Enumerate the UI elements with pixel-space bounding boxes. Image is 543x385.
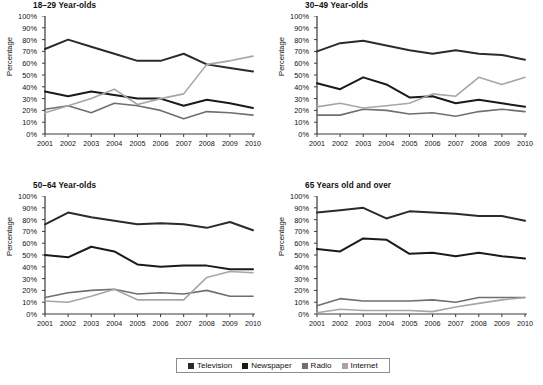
x-tick-label: 2004	[106, 319, 122, 328]
legend-item-radio[interactable]: Radio	[302, 361, 332, 370]
legend-item-internet[interactable]: Internet	[342, 361, 378, 370]
series-line-television	[45, 40, 253, 72]
x-tick-label: 2009	[222, 319, 238, 328]
x-tick-label: 2001	[37, 319, 53, 328]
plot-area	[45, 16, 253, 134]
x-tick-label: 2010	[245, 319, 261, 328]
series-line-newspaper	[317, 238, 525, 258]
y-tick-label: 20%	[22, 106, 37, 115]
x-tick-label: 2007	[448, 319, 464, 328]
y-tick-label: 80%	[22, 35, 37, 44]
legend-item-television[interactable]: Television	[188, 361, 232, 370]
series-line-radio	[45, 289, 253, 297]
panel-30-49: 30–49 Year-olds Percentage 0%10%20%30%40…	[272, 0, 543, 178]
y-tick-label: 80%	[294, 215, 309, 224]
x-tick-label: 2006	[425, 139, 441, 148]
x-tick-label: 2001	[309, 319, 325, 328]
plot-area	[317, 16, 525, 134]
series-line-radio	[317, 109, 525, 116]
legend-swatch-icon	[188, 363, 194, 369]
chart-legend: TelevisionNewspaperRadioInternet	[176, 358, 390, 373]
legend-item-newspaper[interactable]: Newspaper	[242, 361, 291, 370]
panel-grid: 18–29 Year-olds Percentage 0%10%20%30%40…	[0, 0, 543, 356]
y-tick-label: 100%	[18, 192, 37, 201]
series-line-television	[317, 208, 525, 221]
y-tick-label: 50%	[294, 251, 309, 260]
x-tick-label: 2002	[60, 319, 76, 328]
x-tick-label: 2010	[517, 319, 533, 328]
x-tick-labels: 2001200220032004200520062007200820092010	[45, 138, 253, 152]
x-tick-label: 2004	[106, 139, 122, 148]
x-tick-label: 2004	[378, 139, 394, 148]
x-tick-label: 2004	[378, 319, 394, 328]
y-tick-label: 10%	[22, 118, 37, 127]
y-tick-label: 20%	[294, 106, 309, 115]
y-tick-label: 40%	[22, 82, 37, 91]
legend-label: Television	[197, 361, 232, 370]
legend-swatch-icon	[342, 363, 348, 369]
x-tick-label: 2001	[37, 139, 53, 148]
y-tick-label: 60%	[294, 59, 309, 68]
y-tick-label: 50%	[22, 71, 37, 80]
panel-50-64: 50–64 Year-olds Percentage 0%10%20%30%40…	[0, 180, 271, 358]
x-tick-label: 2008	[471, 139, 487, 148]
legend-swatch-icon	[242, 363, 248, 369]
y-tick-label: 60%	[294, 239, 309, 248]
x-tick-label: 2003	[83, 139, 99, 148]
series-line-internet	[317, 77, 525, 108]
x-tick-label: 2001	[309, 139, 325, 148]
x-tick-label: 2002	[332, 319, 348, 328]
y-tick-label: 90%	[294, 203, 309, 212]
y-tick-label: 80%	[294, 35, 309, 44]
y-tick-label: 10%	[294, 118, 309, 127]
x-tick-label: 2008	[471, 319, 487, 328]
x-tick-label: 2010	[517, 139, 533, 148]
y-tick-label: 10%	[294, 298, 309, 307]
x-tick-label: 2003	[83, 319, 99, 328]
y-tick-label: 20%	[294, 286, 309, 295]
x-tick-label: 2008	[199, 319, 215, 328]
y-tick-label: 70%	[294, 47, 309, 56]
y-tick-label: 60%	[22, 59, 37, 68]
x-tick-label: 2010	[245, 139, 261, 148]
x-tick-label: 2009	[222, 139, 238, 148]
x-tick-label: 2005	[129, 139, 145, 148]
y-tick-label: 40%	[22, 262, 37, 271]
series-line-radio	[45, 103, 253, 118]
x-tick-label: 2005	[401, 139, 417, 148]
y-tick-label: 100%	[18, 12, 37, 21]
plot-area	[45, 196, 253, 314]
panel-title: 18–29 Year-olds	[33, 1, 96, 10]
x-tick-label: 2003	[355, 319, 371, 328]
series-line-newspaper	[45, 247, 253, 269]
panel-65-and-over: 65 Years old and over Percentage 0%10%20…	[272, 180, 543, 358]
y-tick-label: 30%	[22, 274, 37, 283]
x-tick-label: 2009	[494, 319, 510, 328]
legend-label: Radio	[311, 361, 332, 370]
y-tick-label: 70%	[294, 227, 309, 236]
panel-title: 30–49 Year-olds	[305, 1, 368, 10]
plot-svg	[308, 196, 532, 322]
x-tick-label: 2002	[332, 139, 348, 148]
plot-svg	[308, 16, 532, 142]
y-tick-label: 50%	[294, 71, 309, 80]
y-tick-label: 20%	[22, 286, 37, 295]
x-tick-label: 2006	[425, 319, 441, 328]
plot-svg	[36, 16, 260, 142]
panel-18-29: 18–29 Year-olds Percentage 0%10%20%30%40…	[0, 0, 271, 178]
x-tick-label: 2002	[60, 139, 76, 148]
x-tick-labels: 2001200220032004200520062007200820092010	[45, 318, 253, 332]
plot-svg	[36, 196, 260, 322]
series-line-internet	[45, 272, 253, 303]
x-tick-label: 2008	[199, 139, 215, 148]
y-tick-label: 70%	[22, 227, 37, 236]
figure-multi-panel-line-chart: 18–29 Year-olds Percentage 0%10%20%30%40…	[0, 0, 543, 385]
y-tick-label: 80%	[22, 215, 37, 224]
y-tick-label: 60%	[22, 239, 37, 248]
x-tick-label: 2005	[401, 319, 417, 328]
y-tick-label: 90%	[22, 23, 37, 32]
x-tick-label: 2009	[494, 139, 510, 148]
y-tick-label: 40%	[294, 262, 309, 271]
x-tick-label: 2006	[153, 139, 169, 148]
x-tick-labels: 2001200220032004200520062007200820092010	[317, 318, 525, 332]
